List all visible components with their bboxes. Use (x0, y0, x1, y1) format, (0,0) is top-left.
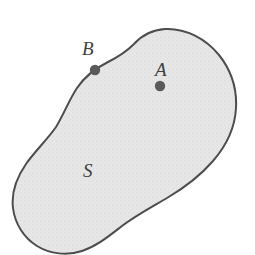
region-diagram-canvas (0, 0, 255, 255)
point-b-marker (90, 65, 100, 75)
point-b-label: B (82, 39, 94, 58)
region-s-label: S (83, 161, 93, 180)
region-s-shape (13, 29, 236, 254)
point-a-marker (155, 81, 165, 91)
figure-container: A B S (0, 0, 255, 255)
point-a-label: A (155, 60, 167, 79)
